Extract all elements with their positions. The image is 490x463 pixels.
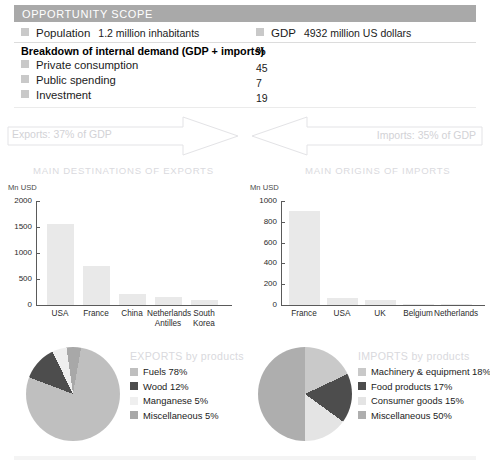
legend-item: Wood 12% xyxy=(130,381,244,392)
breakdown-row-value: 45 xyxy=(256,62,268,74)
x-axis-line xyxy=(281,305,485,306)
exports-chart-title: MAIN DESTINATIONS OF EXPORTS xyxy=(33,165,214,176)
x-axis-line xyxy=(36,305,232,306)
y-axis-tick-label: 200 xyxy=(245,279,277,288)
y-axis-tick-label: 600 xyxy=(245,238,277,247)
legend-swatch-icon xyxy=(130,368,138,376)
legend-item-label: Consumer goods 15% xyxy=(371,395,464,406)
opportunity-scope-header: OPPORTUNITY SCOPE xyxy=(14,5,476,22)
legend-item: Miscellaneous 50% xyxy=(358,410,490,421)
bar xyxy=(47,224,74,305)
legend-swatch-icon xyxy=(130,411,138,419)
population-value: 1.2 million inhabitants xyxy=(98,27,199,39)
exports-pie-legend: EXPORTS by products Fuels 78%Wood 12%Man… xyxy=(130,350,244,424)
bullet-square-icon xyxy=(21,60,29,68)
breakdown-row-value: 19 xyxy=(256,92,268,104)
x-axis-category-label: Netherlands xyxy=(434,309,478,319)
bar xyxy=(327,298,358,305)
footer-divider xyxy=(14,456,476,460)
y-axis-tick-label: 1500 xyxy=(0,222,32,231)
breakdown-unit-header: % xyxy=(256,45,266,57)
legend-item-label: Manganese 5% xyxy=(143,395,208,406)
legend-swatch-icon xyxy=(358,411,366,419)
opportunity-scope-page: OPPORTUNITY SCOPE Population 1.2 million… xyxy=(0,0,490,463)
legend-swatch-icon xyxy=(358,382,366,390)
exports-bar-chart: Mn USD 0500100015002000 USAFranceChinaNe… xyxy=(0,183,245,333)
bar xyxy=(365,300,396,305)
breakdown-row: Investment xyxy=(21,89,91,101)
legend-swatch-icon xyxy=(130,382,138,390)
bar xyxy=(403,304,434,305)
exports-y-axis-unit: Mn USD xyxy=(8,183,37,192)
y-axis-tick-label: 0 xyxy=(0,300,32,309)
breakdown-row-label: Investment xyxy=(36,89,91,101)
page-title: OPPORTUNITY SCOPE xyxy=(14,8,153,20)
legend-swatch-icon xyxy=(358,368,366,376)
y-axis-tick-label: 1000 xyxy=(0,248,32,257)
breakdown-row-label: Private consumption xyxy=(36,59,138,71)
legend-item-label: Fuels 78% xyxy=(143,366,187,377)
legend-swatch-icon xyxy=(130,397,138,405)
y-axis-tick-label: 2000 xyxy=(0,196,32,205)
y-axis-tick-label: 500 xyxy=(0,274,32,283)
imports-share-label: Imports: 35% of GDP xyxy=(377,129,476,141)
stat-population: Population 1.2 million inhabitants xyxy=(21,27,199,39)
gdp-label: GDP xyxy=(271,27,296,39)
imports-chart-title: MAIN ORIGINS OF IMPORTS xyxy=(305,165,450,176)
bar xyxy=(441,304,472,305)
legend-item-label: Machinery & equipment 18% xyxy=(371,366,490,377)
breakdown-row: Public spending xyxy=(21,74,116,86)
x-axis-category-label: South Korea xyxy=(183,309,225,329)
y-axis-tick-label: 800 xyxy=(245,217,277,226)
bar xyxy=(191,300,218,305)
y-axis-line xyxy=(281,201,282,305)
legend-item-label: Food products 17% xyxy=(371,381,452,392)
legend-item-label: Miscellaneous 50% xyxy=(371,410,452,421)
imports-legend-title: IMPORTS by products xyxy=(358,350,490,362)
bullet-square-icon xyxy=(256,28,264,36)
breakdown-row: Private consumption xyxy=(21,59,138,71)
breakdown-row-value: 7 xyxy=(256,77,262,89)
legend-item: Machinery & equipment 18% xyxy=(358,366,490,377)
exports-share-label: Exports: 37% of GDP xyxy=(12,128,112,140)
bar xyxy=(289,211,320,305)
legend-item: Fuels 78% xyxy=(130,366,244,377)
y-axis-tick-label: 0 xyxy=(245,300,277,309)
exports-pie-chart xyxy=(26,347,120,441)
bullet-square-icon xyxy=(21,28,29,36)
imports-pie-legend: IMPORTS by products Machinery & equipmen… xyxy=(358,350,490,424)
breakdown-title: Breakdown of internal demand (GDP + impo… xyxy=(21,45,264,57)
gdp-value: 4932 million US dollars xyxy=(304,27,411,39)
y-axis-tick-label: 400 xyxy=(245,258,277,267)
legend-item-label: Miscellaneous 5% xyxy=(143,410,219,421)
bar xyxy=(155,297,182,305)
divider xyxy=(14,42,476,43)
bullet-square-icon xyxy=(21,90,29,98)
divider xyxy=(14,107,476,108)
legend-swatch-icon xyxy=(358,397,366,405)
legend-item: Consumer goods 15% xyxy=(358,395,490,406)
bullet-square-icon xyxy=(21,75,29,83)
legend-item: Food products 17% xyxy=(358,381,490,392)
exports-legend-title: EXPORTS by products xyxy=(130,350,244,362)
legend-item: Miscellaneous 5% xyxy=(130,410,244,421)
population-label: Population xyxy=(36,27,90,39)
bar xyxy=(119,294,146,305)
stat-gdp: GDP 4932 million US dollars xyxy=(256,27,411,39)
legend-item-label: Wood 12% xyxy=(143,381,189,392)
breakdown-row-label: Public spending xyxy=(36,74,116,86)
y-axis-tick-label: 1000 xyxy=(245,196,277,205)
legend-item: Manganese 5% xyxy=(130,395,244,406)
imports-pie-chart xyxy=(258,347,352,441)
y-axis-line xyxy=(36,201,37,305)
imports-bar-chart: Mn USD 02004006008001000 FranceUSAUKBelg… xyxy=(245,183,490,333)
imports-y-axis-unit: Mn USD xyxy=(250,183,279,192)
bar xyxy=(83,266,110,305)
